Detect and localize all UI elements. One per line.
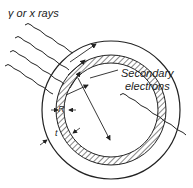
- thickness-label: R: [58, 105, 65, 114]
- secondary-label-line1: Secondary: [121, 68, 174, 79]
- radiation-label: γ or x rays: [8, 8, 59, 19]
- gap-label: t: [55, 129, 58, 138]
- chamber-diagram: [0, 0, 193, 188]
- secondary-label-line2: electrons: [125, 81, 170, 92]
